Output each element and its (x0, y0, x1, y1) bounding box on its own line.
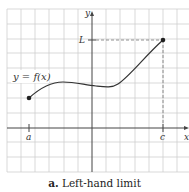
x-axis-arrow-icon (184, 126, 189, 130)
end-point (161, 38, 166, 43)
axes (7, 14, 186, 172)
caption-text: Left-hand limit (62, 177, 141, 189)
caption-label: a. (48, 177, 58, 189)
y-axis-label: y (84, 8, 91, 18)
start-point (27, 96, 32, 101)
c-label: c (160, 132, 165, 142)
L-label: L (78, 35, 85, 45)
limit-diagram: y = f(x) y x L a c (0, 0, 189, 192)
y-axis-arrow-icon (90, 11, 94, 16)
function-label: y = f(x) (12, 71, 51, 82)
a-label: a (26, 132, 31, 142)
figure-caption: a. Left-hand limit (0, 177, 189, 189)
grid (7, 9, 189, 172)
x-axis-label: x (184, 132, 189, 142)
